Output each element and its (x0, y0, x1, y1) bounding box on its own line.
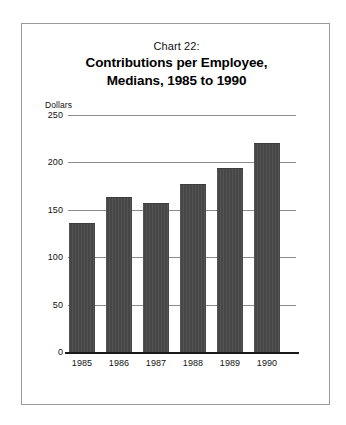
y-tick-label-200: 200 (48, 157, 63, 167)
y-tick-label-250: 250 (48, 110, 63, 120)
x-tick-label-1990: 1990 (247, 358, 287, 368)
bar-1989[interactable] (217, 168, 243, 352)
plot-area: 250 200 150 100 50 0 (68, 115, 296, 352)
chart-title-line-1: Chart 22: (22, 39, 331, 54)
y-tick-label-150: 150 (48, 205, 63, 215)
chart-frame: Chart 22: Contributions per Employee, Me… (21, 23, 330, 405)
y-tick-label-100: 100 (48, 252, 63, 262)
x-tick-label-1986: 1986 (99, 358, 139, 368)
chart-title-line-2: Contributions per Employee, (22, 54, 331, 72)
bar-1985[interactable] (69, 223, 95, 352)
x-axis-line (65, 352, 299, 354)
x-tick-label-1989: 1989 (210, 358, 250, 368)
x-tick-label-1985: 1985 (62, 358, 102, 368)
gridline-250: 250 (68, 115, 296, 116)
y-tick-label-0: 0 (58, 347, 63, 357)
y-tick-label-50: 50 (53, 300, 63, 310)
chart-title-block: Chart 22: Contributions per Employee, Me… (22, 39, 331, 90)
x-tick-label-1987: 1987 (136, 358, 176, 368)
x-tick-label-1988: 1988 (173, 358, 213, 368)
y-axis-unit-label: Dollars (45, 100, 72, 110)
bar-1987[interactable] (143, 203, 169, 352)
bar-1986[interactable] (106, 197, 132, 352)
chart-figure: Chart 22: Contributions per Employee, Me… (0, 0, 346, 425)
bar-1990[interactable] (254, 143, 280, 352)
bar-1988[interactable] (180, 184, 206, 352)
chart-title-line-3: Medians, 1985 to 1990 (22, 72, 331, 90)
